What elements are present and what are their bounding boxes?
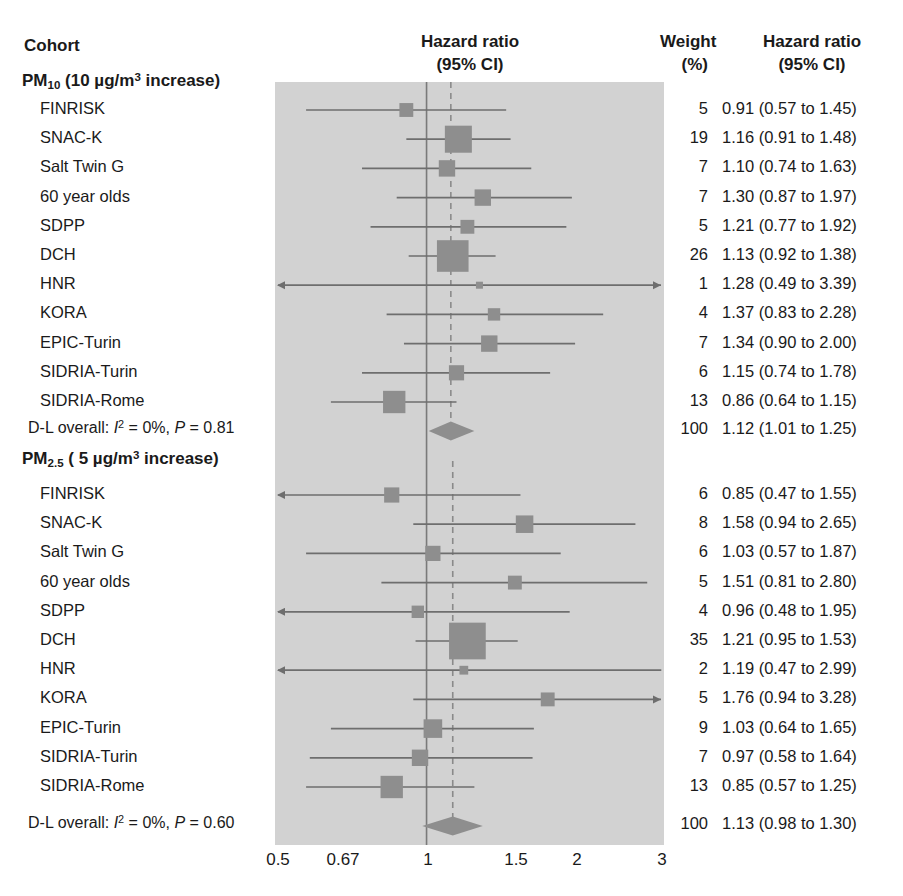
row-weight-value: 1 [660,274,708,293]
row-weight-value: 8 [660,513,708,532]
axis-tick-label: 2 [572,850,581,870]
axis-tick-label: 3 [657,850,666,870]
row-weight-value: 2 [660,659,708,678]
row-weight-value: 4 [660,601,708,620]
row-hazard-ratio: 1.58 (0.94 to 2.65) [722,513,900,532]
row-cohort-label: HNR [0,659,308,678]
effect-marker-square [508,576,522,590]
row-cohort-label: 60 year olds [0,572,308,591]
row-weight-value: 4 [660,303,708,322]
axis-tick-label: 0.5 [266,850,290,870]
row-cohort-label: DCH [0,245,308,264]
row-cohort-label: SIDRIA-Turin [0,362,308,381]
effect-marker-square [516,515,534,533]
effect-marker-square [412,750,428,766]
row-cohort-label: SIDRIA-Rome [0,776,308,795]
column-header-hr-line2: (95% CI) [722,55,902,75]
row-hazard-ratio: 1.21 (0.95 to 1.53) [722,630,900,649]
axis-tick-label: 1 [423,850,432,870]
row-cohort-label: SNAC-K [0,513,308,532]
summary-hazard-ratio-pm25: 1.13 (0.98 to 1.30) [722,814,900,833]
row-hazard-ratio: 1.37 (0.83 to 2.28) [722,303,900,322]
row-cohort-label: KORA [0,303,308,322]
row-hazard-ratio: 1.34 (0.90 to 2.00) [722,333,900,352]
row-cohort-label: SIDRIA-Turin [0,747,308,766]
forest-plot-svg [275,82,664,845]
row-cohort-label: Salt Twin G [0,157,308,176]
row-cohort-label: 60 year olds [0,187,308,206]
row-weight-value: 5 [660,572,708,591]
effect-marker-square [424,719,443,738]
row-hazard-ratio: 1.03 (0.57 to 1.87) [722,542,900,561]
row-cohort-label: SIDRIA-Rome [0,391,308,410]
row-weight-value: 5 [660,688,708,707]
column-header-hr-line1: Hazard ratio [722,32,902,52]
row-hazard-ratio: 1.76 (0.94 to 3.28) [722,688,900,707]
effect-marker-square [445,126,472,153]
row-weight-value: 6 [660,484,708,503]
axis-title-line1: Hazard ratio [275,32,665,52]
column-header-weight-line2: (%) [660,55,708,75]
row-weight-value: 35 [660,630,708,649]
column-header-cohort: Cohort [0,36,292,56]
row-cohort-label: HNR [0,274,308,293]
row-hazard-ratio: 1.28 (0.49 to 3.39) [722,274,900,293]
row-weight-value: 7 [660,747,708,766]
row-weight-value: 26 [660,245,708,264]
row-weight-value: 13 [660,391,708,410]
group-heading-pm10: PM10 (10 µg/m3 increase) [0,71,290,91]
effect-marker-square [488,308,500,320]
row-hazard-ratio: 1.30 (0.87 to 1.97) [722,187,900,206]
row-cohort-label: FINRISK [0,99,308,118]
row-hazard-ratio: 1.10 (0.74 to 1.63) [722,157,900,176]
effect-marker-square [459,666,468,675]
row-weight-value: 13 [660,776,708,795]
row-hazard-ratio: 0.97 (0.58 to 1.64) [722,747,900,766]
effect-marker-square [425,546,440,561]
effect-marker-square [476,282,483,289]
row-hazard-ratio: 1.21 (0.77 to 1.92) [722,216,900,235]
row-weight-value: 5 [660,216,708,235]
row-cohort-label: EPIC-Turin [0,718,308,737]
summary-label-pm25: D-L overall: I2 = 0%, P = 0.60 [0,814,296,832]
row-weight-value: 7 [660,157,708,176]
summary-hazard-ratio-pm10: 1.12 (1.01 to 1.25) [722,419,900,438]
row-cohort-label: FINRISK [0,484,308,503]
pooled-diamond-pm25 [422,817,483,836]
effect-marker-square [541,692,555,706]
summary-weight-pm10: 100 [660,419,708,438]
column-header-weight-line1: Weight [660,32,708,52]
row-hazard-ratio: 0.86 (0.64 to 1.15) [722,391,900,410]
row-hazard-ratio: 0.96 (0.48 to 1.95) [722,601,900,620]
row-cohort-label: SDPP [0,601,308,620]
row-hazard-ratio: 1.51 (0.81 to 2.80) [722,572,900,591]
axis-tick-label: 0.67 [326,850,359,870]
effect-marker-square [399,103,413,117]
effect-marker-square [383,391,405,413]
effect-marker-square [384,487,399,502]
row-hazard-ratio: 0.85 (0.47 to 1.55) [722,484,900,503]
effect-marker-square [439,160,455,176]
row-cohort-label: Salt Twin G [0,542,308,561]
row-cohort-label: DCH [0,630,308,649]
row-hazard-ratio: 1.15 (0.74 to 1.78) [722,362,900,381]
effect-marker-square [449,623,486,660]
row-weight-value: 6 [660,542,708,561]
pooled-diamond-pm10 [429,422,475,441]
row-weight-value: 6 [660,362,708,381]
effect-marker-square [412,606,424,618]
summary-label-pm10: D-L overall: I2 = 0%, P = 0.81 [0,419,296,437]
row-weight-value: 19 [660,128,708,147]
effect-marker-square [381,776,403,798]
axis-tick-label: 1.5 [504,850,528,870]
row-hazard-ratio: 1.03 (0.64 to 1.65) [722,718,900,737]
row-hazard-ratio: 1.16 (0.91 to 1.48) [722,128,900,147]
row-weight-value: 7 [660,187,708,206]
row-hazard-ratio: 0.85 (0.57 to 1.25) [722,776,900,795]
row-hazard-ratio: 1.19 (0.47 to 2.99) [722,659,900,678]
effect-marker-square [481,335,497,351]
group-heading-pm25: PM2.5 ( 5 µg/m3 increase) [0,449,290,469]
row-cohort-label: EPIC-Turin [0,333,308,352]
effect-marker-square [460,220,474,234]
row-weight-value: 9 [660,718,708,737]
